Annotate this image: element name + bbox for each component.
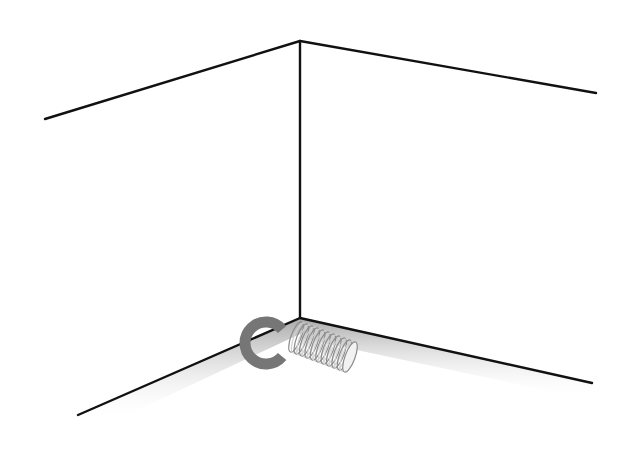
diagram-canvas: room-corner-with-spring-door-stop [0, 0, 634, 455]
room-corner-illustration [0, 0, 634, 455]
ceiling-left-edge [45, 41, 300, 119]
ceiling-right-edge [300, 41, 596, 93]
